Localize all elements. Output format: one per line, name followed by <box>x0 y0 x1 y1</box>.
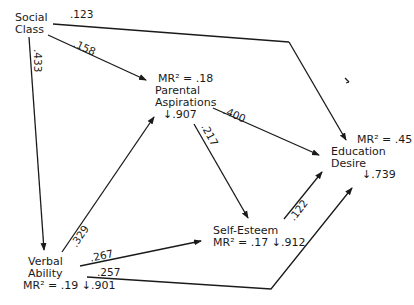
path-diagram: Social Class MR² = .18 Parental Aspirati… <box>0 0 414 305</box>
social-education-bend <box>0 0 414 305</box>
